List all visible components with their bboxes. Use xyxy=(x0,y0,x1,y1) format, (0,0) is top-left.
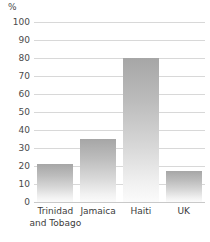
y-axis-unit-label: % xyxy=(8,2,17,13)
y-axis-tick-label: 30 xyxy=(0,144,30,153)
x-axis-line xyxy=(34,202,205,203)
gridline xyxy=(34,40,205,41)
gridline xyxy=(34,76,205,77)
gridline xyxy=(34,22,205,23)
y-axis-tick-label: 80 xyxy=(0,54,30,63)
y-axis-tick-label: 90 xyxy=(0,36,30,45)
y-axis-tick-label: 20 xyxy=(0,162,30,171)
y-axis-tick-label: 50 xyxy=(0,108,30,117)
gridline xyxy=(34,130,205,131)
bar xyxy=(37,164,73,202)
y-axis-tick-label: 40 xyxy=(0,126,30,135)
bar-chart: % 0102030405060708090100 Trinidad and To… xyxy=(0,0,210,242)
y-axis-tick-label: 0 xyxy=(0,198,30,207)
gridline xyxy=(34,94,205,95)
gridline xyxy=(34,148,205,149)
y-axis-tick-label: 100 xyxy=(0,18,30,27)
bar xyxy=(166,171,202,202)
y-axis-tick-label: 70 xyxy=(0,72,30,81)
bar xyxy=(123,58,159,202)
bar xyxy=(80,139,116,202)
y-axis-tick-label: 60 xyxy=(0,90,30,99)
gridline xyxy=(34,58,205,59)
x-axis-category-labels: Trinidad and TobagoJamaicaHaitiUK xyxy=(34,205,205,242)
gridline xyxy=(34,112,205,113)
plot-area: 0102030405060708090100 xyxy=(34,22,205,202)
x-axis-category-label: UK xyxy=(156,205,210,217)
y-axis-tick-label: 10 xyxy=(0,180,30,189)
